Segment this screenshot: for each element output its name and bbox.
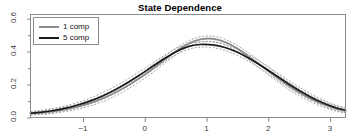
legend-line-swatch (39, 26, 59, 28)
series-line-5-comp (31, 44, 346, 113)
x-axis-tick-label: 1 (197, 124, 217, 133)
chart-legend[interactable]: 1 comp5 comp (33, 17, 99, 45)
x-axis-tick-label: −1 (73, 124, 93, 133)
y-axis-tick-label: 0.0 (9, 106, 18, 128)
x-axis-tick-label: 0 (135, 124, 155, 133)
y-axis-tick-label: 0.6 (9, 7, 18, 29)
legend-label: 1 comp (63, 21, 89, 32)
legend-line-swatch (39, 37, 59, 39)
confidence-bands (31, 36, 346, 115)
x-axis-tick-label: 3 (320, 124, 340, 133)
y-axis-tick-label: 0.4 (9, 40, 18, 62)
chart-figure: State Dependence 0.00.20.40.6 −10123 1 c… (0, 0, 360, 140)
legend-label: 5 comp (63, 32, 89, 43)
confidence-band-2-upper (31, 42, 346, 112)
legend-item-1-comp[interactable]: 1 comp (34, 21, 98, 32)
y-axis-tick-label: 0.2 (9, 73, 18, 95)
legend-item-5-comp[interactable]: 5 comp (34, 32, 98, 43)
x-axis-tick-label: 2 (258, 124, 278, 133)
